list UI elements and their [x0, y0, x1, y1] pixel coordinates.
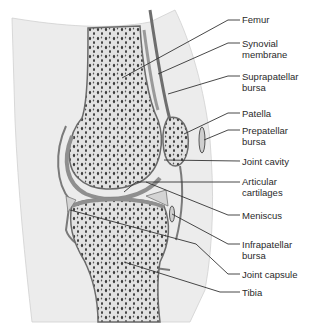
label-articular-cartilages: Articularcartilages	[242, 176, 283, 198]
label-text: Tibia	[242, 287, 262, 298]
label-text: cartilages	[242, 187, 283, 198]
label-text: Meniscus	[242, 210, 282, 221]
label-prepatellar-bursa: Prepatellarbursa	[242, 125, 288, 147]
label-text: bursa	[242, 82, 266, 93]
label-tibia: Tibia	[242, 287, 262, 298]
label-text: Prepatellar	[242, 125, 288, 136]
label-text: Joint cavity	[242, 156, 289, 167]
label-text: bursa	[242, 136, 266, 147]
label-text: membrane	[242, 49, 287, 60]
label-text: Suprapatellar	[242, 71, 299, 82]
label-suprapatellar-bursa: Suprapatellarbursa	[242, 71, 299, 93]
label-joint-capsule: Joint capsule	[242, 269, 297, 280]
label-text: Joint capsule	[242, 269, 297, 280]
label-text: Synovial	[242, 38, 278, 49]
patella-bone	[163, 117, 188, 166]
label-meniscus: Meniscus	[242, 210, 282, 221]
label-joint-cavity: Joint cavity	[242, 156, 289, 167]
label-text: Infrapatellar	[242, 239, 292, 250]
label-synovial-membrane: Synovialmembrane	[242, 38, 287, 60]
label-infrapatellar-bursa: Infrapatellarbursa	[242, 239, 292, 261]
label-patella: Patella	[242, 108, 271, 119]
label-text: Articular	[242, 176, 277, 187]
label-text: bursa	[242, 250, 266, 261]
label-text: Femur	[242, 14, 269, 25]
label-femur: Femur	[242, 14, 269, 25]
label-text: Patella	[242, 108, 271, 119]
